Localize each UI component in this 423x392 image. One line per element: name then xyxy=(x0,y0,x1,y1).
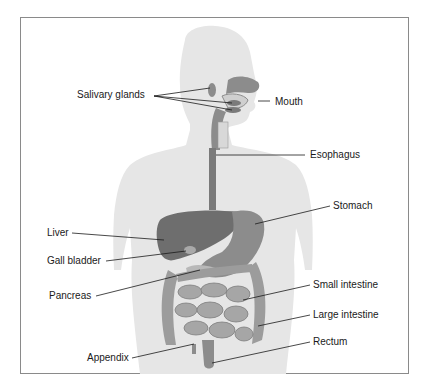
label-liver: Liver xyxy=(47,227,69,239)
label-small-intestine: Small intestine xyxy=(313,279,378,291)
parotid-gland xyxy=(208,83,216,97)
label-gall-bladder: Gall bladder xyxy=(47,255,101,267)
gall-bladder-shape xyxy=(184,246,196,254)
label-stomach: Stomach xyxy=(333,200,372,212)
trachea xyxy=(218,122,228,148)
label-salivary-glands: Salivary glands xyxy=(77,89,145,101)
anatomy-illustration xyxy=(0,0,423,392)
small-intestine-shape xyxy=(175,283,253,341)
submandibular-gland xyxy=(225,107,241,113)
label-esophagus: Esophagus xyxy=(310,149,360,161)
label-mouth: Mouth xyxy=(275,96,303,108)
esophagus-tube xyxy=(209,148,216,210)
label-pancreas: Pancreas xyxy=(49,290,91,302)
label-large-intestine: Large intestine xyxy=(313,309,379,321)
appendix-shape xyxy=(192,344,196,354)
digestive-system-diagram: Salivary glands Mouth Esophagus Stomach … xyxy=(0,0,423,392)
label-appendix: Appendix xyxy=(87,352,129,364)
label-rectum: Rectum xyxy=(313,336,347,348)
